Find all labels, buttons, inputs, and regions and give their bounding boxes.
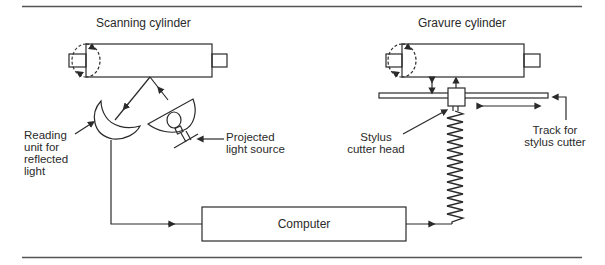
stylus-label-line: cutter head [340,143,412,155]
computer-label: Computer [202,218,406,230]
light-source-icon [148,99,198,148]
stylus-label: Stylus cutter head [340,131,412,155]
stylus-label-line: Stylus [340,131,412,143]
stylus-cutter-head-icon [448,88,465,106]
reading-unit-label-line: unit for [24,141,68,153]
reading-unit-label: Reading unit for reflected light [24,129,68,177]
gravure-cylinder-title: Gravure cylinder [418,17,506,29]
reading-pointer [75,123,92,134]
reading-unit-label-line: Reading [24,129,68,141]
track-pointer [555,97,566,120]
gravure-cylinder-icon [386,44,540,77]
light-source-label-line: Projected [226,131,285,143]
reading-unit-icon [94,101,140,139]
track-label: Track for stylus cutter [512,124,598,148]
track-label-line: Track for [512,124,598,136]
scanning-cylinder-title: Scanning cylinder [96,17,191,29]
scanning-cylinder-icon [69,44,227,77]
light-source-label-line: light source [226,143,285,155]
light-ray-paths [115,77,168,120]
reading-unit-label-line: reflected [24,153,68,165]
reading-to-computer-line [111,140,202,224]
track-label-line: stylus cutter [512,136,598,148]
light-source-label: Projected light source [226,131,285,155]
reading-unit-label-line: light [24,165,68,177]
spring-icon [447,111,463,224]
